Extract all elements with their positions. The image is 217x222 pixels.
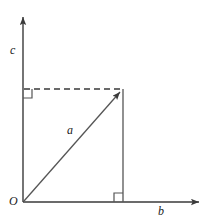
origin-label: O (9, 195, 18, 207)
upper-left-right-angle-marker (23, 89, 32, 98)
vertical-axis-label: c (10, 44, 15, 56)
hypotenuse-label: a (67, 124, 73, 136)
diagram-canvas (0, 0, 217, 222)
hypotenuse-vector-line (24, 92, 120, 201)
vector-diagram-figure: c a b O (0, 0, 217, 222)
lower-right-right-angle-marker (114, 193, 123, 202)
horizontal-axis-label: b (158, 205, 164, 217)
